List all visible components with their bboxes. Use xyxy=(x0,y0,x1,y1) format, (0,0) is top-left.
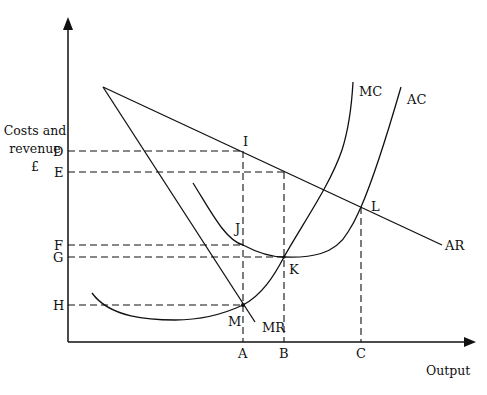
point-j-label: J xyxy=(233,221,240,236)
x-label-a: A xyxy=(237,346,248,361)
ac-label: AC xyxy=(406,92,426,107)
point-k-label: K xyxy=(289,262,299,277)
point-m-label: M xyxy=(228,314,241,329)
y-label-g: G xyxy=(53,250,63,265)
ar-label: AR xyxy=(444,238,465,253)
x-label-c: C xyxy=(356,346,366,361)
x-label-b: B xyxy=(279,346,289,361)
y-label-d: D xyxy=(53,144,63,159)
mr-label: MR xyxy=(262,320,286,335)
mc-curve xyxy=(92,82,353,320)
point-m-marker xyxy=(241,303,245,307)
y-axis-arrow-icon xyxy=(63,17,73,30)
y-label-e: E xyxy=(54,165,64,180)
mc-label: MC xyxy=(359,84,382,99)
point-i-label: I xyxy=(243,134,248,149)
y-label-h: H xyxy=(53,298,64,313)
point-l-label: L xyxy=(371,199,380,214)
cost-revenue-diagram: MC AC AR MR D E F G H A B C I J K L M xyxy=(0,0,487,395)
x-axis-arrow-icon xyxy=(464,337,476,347)
point-k-marker xyxy=(282,255,285,258)
